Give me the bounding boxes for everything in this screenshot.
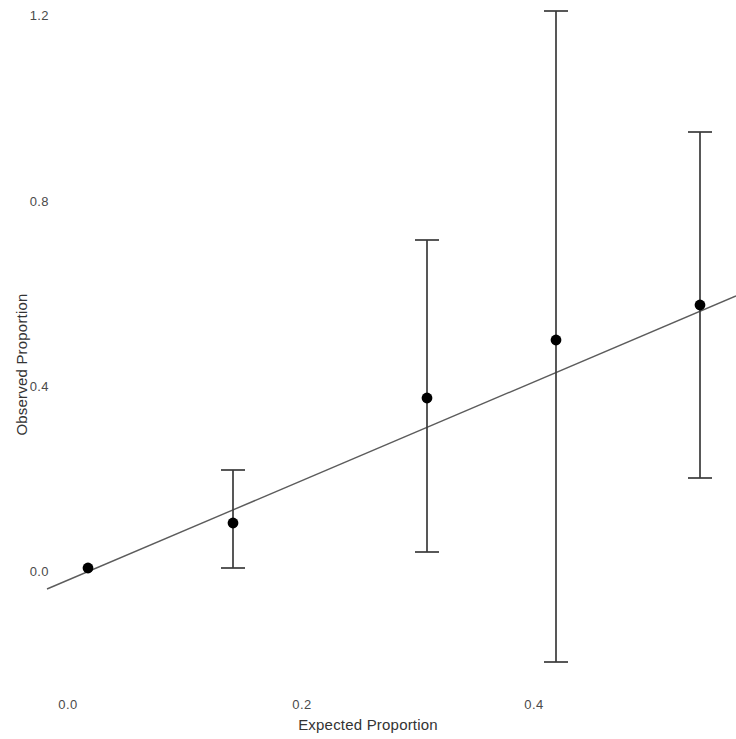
y-tick-label-4: 0.0	[0, 564, 49, 579]
data-point	[228, 518, 239, 529]
fit-line	[47, 296, 736, 589]
calibration-plot: 1.2 0.8 0.4 0.0 0.0 0.2 0.4 Expected Pro…	[0, 0, 736, 739]
y-tick-label-1: 1.2	[0, 8, 49, 23]
fit-line-group	[47, 296, 736, 589]
y-axis-title: Observed Proportion	[13, 255, 30, 475]
x-tick-label-1: 0.0	[38, 697, 98, 712]
data-point	[83, 563, 94, 574]
error-bar-group	[221, 11, 712, 662]
y-tick-label-2: 0.8	[0, 194, 49, 209]
plot-canvas	[0, 0, 736, 739]
data-point-group	[83, 300, 706, 574]
data-point	[422, 393, 433, 404]
data-point	[695, 300, 706, 311]
x-tick-label-3: 0.4	[504, 697, 564, 712]
data-point	[551, 335, 562, 346]
x-axis-title: Expected Proportion	[0, 716, 736, 733]
x-tick-label-2: 0.2	[272, 697, 332, 712]
